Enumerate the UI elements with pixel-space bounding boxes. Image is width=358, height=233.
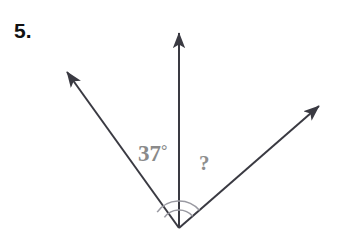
diagram-canvas: 5. 37° ? xyxy=(0,0,358,233)
problem-number: 5. xyxy=(14,20,32,41)
rays-group xyxy=(67,33,319,228)
known-angle-value: 37 xyxy=(138,141,161,166)
angle-diagram-svg xyxy=(0,0,358,233)
unknown-angle-label: ? xyxy=(199,153,210,174)
degree-symbol-icon: ° xyxy=(161,142,167,159)
known-angle-label: 37° xyxy=(138,142,167,165)
